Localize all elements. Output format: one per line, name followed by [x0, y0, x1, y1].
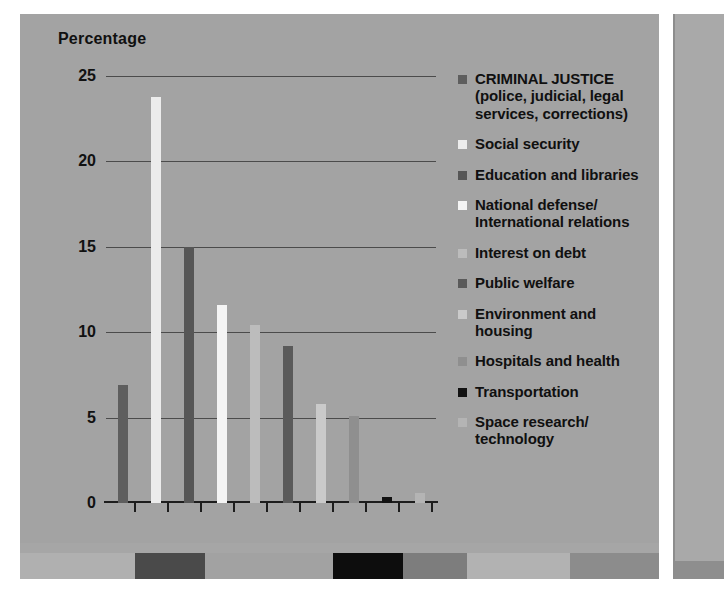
legend-swatch-icon [458, 140, 467, 149]
legend-item-label: CRIMINAL JUSTICE (police, judicial, lega… [475, 70, 628, 122]
chart-panel: Percentage 0510152025 CRIMINAL JUSTICE (… [20, 14, 659, 579]
bar [415, 493, 425, 503]
legend-swatch-icon [458, 201, 467, 210]
legend-swatch-icon [458, 75, 467, 84]
legend-item-label: National defense/ International relation… [475, 196, 629, 231]
x-axis-tick [233, 503, 235, 512]
x-axis-tick [299, 503, 301, 512]
legend-item[interactable]: Public welfare [458, 274, 654, 291]
legend-item-label: Environment and housing [475, 305, 596, 340]
legend-swatch-icon [458, 279, 467, 288]
legend-item[interactable]: Environment and housing [458, 305, 654, 340]
plot-area: 0510152025 [106, 76, 436, 503]
legend-item-label: Hospitals and health [475, 352, 620, 369]
legend-item-label: Education and libraries [475, 166, 639, 183]
legend-item[interactable]: Interest on debt [458, 244, 654, 261]
legend-item[interactable]: Social security [458, 135, 654, 152]
legend-item[interactable]: Hospitals and health [458, 352, 654, 369]
legend-swatch-icon [458, 418, 467, 427]
legend-item-label: Social security [475, 135, 579, 152]
legend-item[interactable]: CRIMINAL JUSTICE (police, judicial, lega… [458, 70, 654, 122]
right-edge-panel [673, 14, 724, 579]
x-axis-tick [200, 503, 202, 512]
legend-swatch-icon [458, 310, 467, 319]
legend-item[interactable]: Education and libraries [458, 166, 654, 183]
footer-strip-segment [467, 553, 569, 579]
y-axis-title: Percentage [58, 30, 146, 48]
y-axis-tick-label: 10 [78, 323, 96, 341]
chart-legend: CRIMINAL JUSTICE (police, judicial, lega… [458, 70, 654, 461]
bar [217, 305, 227, 503]
bar [283, 346, 293, 503]
legend-item-label: Transportation [475, 383, 579, 400]
y-axis-tick-label: 20 [78, 152, 96, 170]
footer-strip-segment [205, 553, 333, 579]
x-axis-tick [365, 503, 367, 512]
bar [382, 497, 392, 503]
footer-color-strip [20, 553, 659, 579]
legend-item-label: Public welfare [475, 274, 574, 291]
legend-swatch-icon [458, 388, 467, 397]
bar [151, 97, 161, 504]
legend-item[interactable]: Transportation [458, 383, 654, 400]
x-axis-tick [266, 503, 268, 512]
legend-item[interactable]: National defense/ International relation… [458, 196, 654, 231]
footer-strip-segment [20, 553, 135, 579]
y-axis-tick-label: 5 [87, 409, 96, 427]
x-axis-tick [332, 503, 334, 512]
x-axis-tick [398, 503, 400, 512]
legend-swatch-icon [458, 249, 467, 258]
bar [250, 325, 260, 503]
bar [316, 404, 326, 503]
legend-item[interactable]: Space research/ technology [458, 413, 654, 448]
footer-strip-segment [135, 553, 205, 579]
bar [118, 385, 128, 503]
gridline [106, 76, 436, 77]
footer-strip-segment [403, 553, 467, 579]
x-axis-tick [431, 503, 433, 512]
legend-item-label: Interest on debt [475, 244, 586, 261]
footer-shade [20, 543, 659, 553]
x-axis-tick [167, 503, 169, 512]
footer-strip-segment [333, 553, 403, 579]
bar [349, 416, 359, 503]
x-axis-tick [134, 503, 136, 512]
bar [184, 247, 194, 503]
legend-swatch-icon [458, 357, 467, 366]
y-axis-tick-label: 15 [78, 238, 96, 256]
legend-item-label: Space research/ technology [475, 413, 589, 448]
y-axis-tick-label: 0 [87, 494, 96, 512]
right-edge-panel-footer [675, 561, 724, 579]
legend-swatch-icon [458, 171, 467, 180]
footer-strip-segment [570, 553, 659, 579]
y-axis-tick-label: 25 [78, 67, 96, 85]
